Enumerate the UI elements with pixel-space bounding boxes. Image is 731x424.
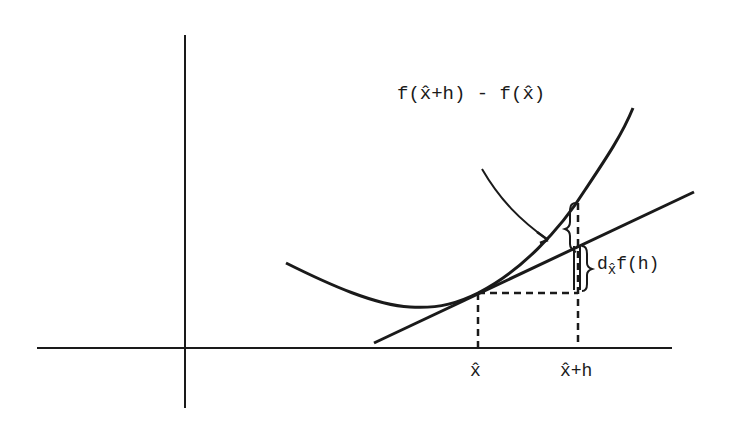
x-hat-label: x̂ xyxy=(470,361,481,381)
diagram-drawing xyxy=(0,0,731,424)
differential-label: dx̂f(h) xyxy=(597,254,659,278)
brace-differential xyxy=(574,246,592,291)
difference-label: f(x̂+h) - f(x̂) xyxy=(397,83,545,105)
arrow-to-difference xyxy=(482,169,548,240)
differential-suffix: f(h) xyxy=(616,254,659,274)
brace-difference xyxy=(565,203,576,252)
x-hat-plus-h-label: x̂+h xyxy=(560,361,592,381)
diagram-canvas: f(x̂+h) - f(x̂) dx̂f(h) x̂ x̂+h xyxy=(0,0,731,424)
differential-subscript: x̂ xyxy=(608,262,616,278)
arrow-head xyxy=(537,232,548,243)
differential-prefix: d xyxy=(597,254,608,274)
